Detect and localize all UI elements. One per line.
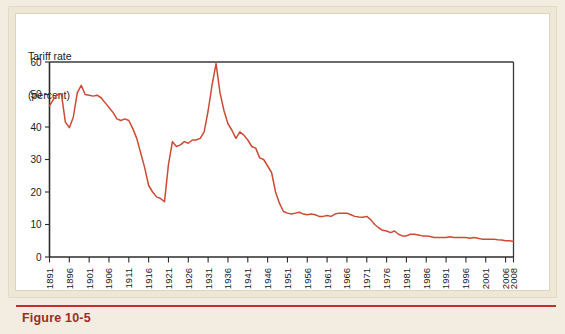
data-series-group (50, 64, 514, 242)
y-axis-tick-label: 0 (36, 252, 42, 263)
x-axis-tick-label: 1891 (44, 268, 55, 289)
y-axis-tick-label: 50 (30, 89, 42, 100)
figure-container: Tariff rate (percent) 0102030405060 1891… (0, 0, 565, 334)
x-axis-tick-label: 1916 (143, 268, 154, 289)
y-axis-tick-label: 40 (30, 122, 42, 133)
y-axis-tick-label: 60 (30, 57, 42, 68)
x-axis-tick-label: 1936 (222, 268, 233, 289)
x-axis-tick-label: 1901 (84, 268, 95, 289)
x-axis-tick-label: 1921 (163, 268, 174, 289)
x-axis-tick-label: 2001 (480, 268, 491, 289)
x-axis-tick-label: 1956 (302, 268, 313, 289)
x-axis-tick-group: 1891189619011906191119161921192619311936… (44, 257, 519, 289)
x-axis-tick-label: 1981 (401, 268, 412, 289)
x-axis-tick-label: 1976 (381, 268, 392, 289)
plot-frame (50, 62, 514, 257)
x-axis-tick-label: 1941 (242, 268, 253, 289)
x-axis-tick-label: 1986 (421, 268, 432, 289)
x-axis-tick-label: 1951 (282, 268, 293, 289)
y-axis-tick-label: 20 (30, 187, 42, 198)
data-line-average-tariff-rate (50, 64, 514, 242)
x-axis-tick-label: 1996 (460, 268, 471, 289)
x-axis-tick-label: 1991 (440, 268, 451, 289)
y-axis-tick-label: 30 (30, 154, 42, 165)
x-axis-tick-label: 1966 (341, 268, 352, 289)
x-axis-tick-label: 1946 (262, 268, 273, 289)
x-axis-tick-label: 1896 (64, 268, 75, 289)
line-chart: 0102030405060 18911896190119061911191619… (0, 0, 565, 334)
y-axis-tick-group: 0102030405060 (30, 57, 49, 263)
x-axis-tick-label: 2008 (508, 268, 519, 289)
x-axis-tick-label: 1926 (183, 268, 194, 289)
x-axis-tick-label: 1961 (322, 268, 333, 289)
x-axis-tick-label: 1931 (203, 268, 214, 289)
x-axis-tick-label: 1906 (103, 268, 114, 289)
figure-caption: Figure 10-5 (22, 311, 91, 325)
x-axis-tick-label: 1971 (361, 268, 372, 289)
x-axis-tick-label: 1911 (123, 268, 134, 288)
y-axis-tick-label: 10 (30, 219, 42, 230)
caption-rule (16, 305, 556, 307)
